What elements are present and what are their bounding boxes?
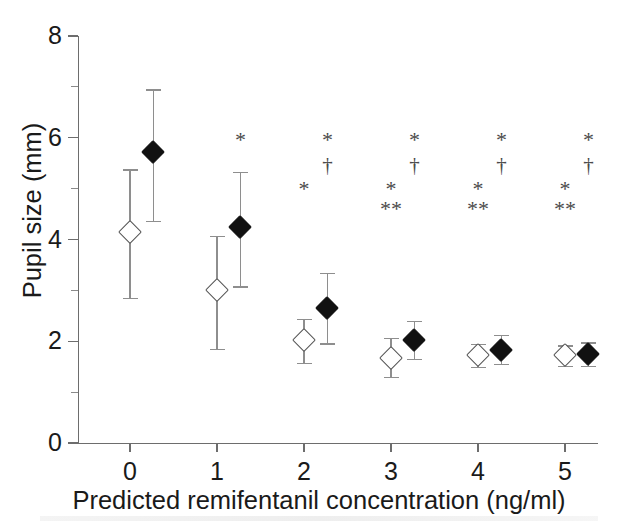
error-cap-lower-open-diamond-3 bbox=[384, 377, 399, 378]
significance-marker-4: † bbox=[392, 155, 436, 176]
y-tick-label-0: 0 bbox=[40, 430, 62, 455]
y-minor-tick-3 bbox=[71, 290, 78, 291]
error-cap-lower-filled-diamond-3 bbox=[407, 359, 422, 360]
data-marker-open-diamond-1 bbox=[205, 278, 229, 302]
x-tick-5 bbox=[564, 443, 565, 452]
data-marker-filled-diamond-0 bbox=[141, 140, 165, 164]
data-marker-filled-diamond-4 bbox=[489, 338, 513, 362]
x-axis-line bbox=[78, 443, 598, 444]
data-marker-filled-diamond-1 bbox=[228, 215, 252, 239]
y-axis-title: Pupil size (mm) bbox=[18, 81, 47, 341]
y-minor-tick-7 bbox=[71, 86, 78, 87]
data-marker-open-diamond-2 bbox=[292, 328, 316, 352]
error-cap-lower-open-diamond-2 bbox=[297, 363, 312, 364]
significance-marker-8: † bbox=[566, 155, 610, 176]
x-tick-3 bbox=[390, 443, 391, 452]
error-cap-upper-filled-diamond-4 bbox=[494, 335, 509, 336]
x-tick-2 bbox=[303, 443, 304, 452]
significance-marker-1: * bbox=[305, 129, 349, 151]
error-cap-lower-filled-diamond-2 bbox=[320, 343, 335, 344]
data-marker-open-diamond-5 bbox=[553, 343, 577, 367]
error-cap-lower-filled-diamond-4 bbox=[494, 364, 509, 365]
y-tick-4 bbox=[68, 239, 78, 240]
x-tick-label-2: 2 bbox=[284, 459, 324, 484]
error-cap-upper-open-diamond-2 bbox=[297, 319, 312, 320]
error-cap-lower-open-diamond-4 bbox=[471, 367, 486, 368]
y-tick-label-8: 8 bbox=[40, 23, 62, 48]
caption-strip bbox=[40, 516, 598, 521]
significance-marker-0: * bbox=[218, 129, 262, 151]
x-tick-4 bbox=[477, 443, 478, 452]
error-cap-lower-filled-diamond-5 bbox=[581, 366, 596, 367]
x-tick-label-3: 3 bbox=[371, 459, 411, 484]
error-cap-lower-open-diamond-0 bbox=[123, 298, 138, 299]
error-cap-upper-filled-diamond-2 bbox=[320, 273, 335, 274]
y-tick-8 bbox=[68, 35, 78, 36]
x-tick-label-5: 5 bbox=[545, 459, 585, 484]
x-tick-1 bbox=[216, 443, 217, 452]
y-tick-6 bbox=[68, 137, 78, 138]
significance-marker-5: * bbox=[479, 129, 523, 151]
data-marker-filled-diamond-5 bbox=[576, 342, 600, 366]
x-tick-label-4: 4 bbox=[458, 459, 498, 484]
y-axis-line bbox=[78, 36, 79, 444]
significance-marker-6: † bbox=[479, 155, 523, 176]
x-tick-label-0: 0 bbox=[110, 459, 150, 484]
x-axis-title: Predicted remifentanil concentration (ng… bbox=[0, 486, 638, 515]
y-tick-0 bbox=[68, 442, 78, 443]
significance-marker-2: † bbox=[305, 155, 349, 176]
x-tick-label-1: 1 bbox=[197, 459, 237, 484]
error-cap-lower-open-diamond-1 bbox=[210, 349, 225, 350]
error-cap-upper-filled-diamond-1 bbox=[233, 172, 248, 173]
error-cap-upper-open-diamond-0 bbox=[123, 169, 138, 170]
error-cap-upper-open-diamond-3 bbox=[384, 338, 399, 339]
error-cap-upper-open-diamond-1 bbox=[210, 236, 225, 237]
y-minor-tick-5 bbox=[71, 188, 78, 189]
pupil-size-figure: 02468012345 **†*†*†*†********** Pupil si… bbox=[0, 0, 638, 531]
significance-marker-9: * bbox=[282, 178, 326, 200]
data-marker-filled-diamond-3 bbox=[402, 328, 426, 352]
y-tick-2 bbox=[68, 341, 78, 342]
data-marker-open-diamond-4 bbox=[466, 343, 490, 367]
data-marker-filled-diamond-2 bbox=[315, 296, 339, 320]
error-cap-lower-filled-diamond-1 bbox=[233, 286, 248, 287]
significance-marker-13: ** bbox=[456, 198, 500, 220]
error-cap-upper-filled-diamond-3 bbox=[407, 321, 422, 322]
y-minor-tick-1 bbox=[71, 392, 78, 393]
data-marker-open-diamond-0 bbox=[118, 220, 142, 244]
significance-marker-11: ** bbox=[369, 198, 413, 220]
significance-marker-3: * bbox=[392, 129, 436, 151]
data-marker-open-diamond-3 bbox=[379, 345, 403, 369]
error-cap-upper-filled-diamond-0 bbox=[146, 89, 161, 90]
significance-marker-15: ** bbox=[543, 198, 587, 220]
error-cap-lower-filled-diamond-0 bbox=[146, 221, 161, 222]
significance-marker-7: * bbox=[566, 129, 610, 151]
x-tick-0 bbox=[129, 443, 130, 452]
